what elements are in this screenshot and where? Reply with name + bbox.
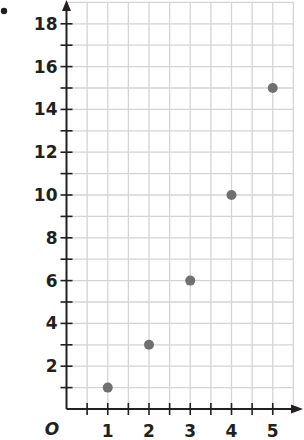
x-tick-label: 3	[184, 421, 196, 440]
data-point	[144, 340, 154, 350]
y-tick-label: 14	[34, 99, 58, 119]
x-tick-label: 4	[226, 421, 238, 440]
y-tick-label: 10	[34, 185, 58, 205]
y-tick-label: 12	[34, 142, 58, 162]
scatter-chart: 2468101214161812345O	[0, 0, 304, 440]
data-point	[268, 83, 278, 93]
y-tick-label: 6	[46, 271, 58, 291]
tick-labels: 2468101214161812345O	[34, 14, 279, 440]
y-tick-label: 8	[46, 228, 58, 248]
x-tick-label: 5	[267, 421, 279, 440]
y-tick-label: 16	[34, 57, 58, 77]
y-tick-label: 2	[46, 356, 58, 376]
x-tick-label: 1	[102, 421, 114, 440]
axis-ticks	[61, 24, 273, 415]
bullet-mark	[1, 8, 7, 14]
data-point	[103, 383, 113, 393]
y-tick-label: 18	[34, 14, 58, 34]
x-tick-label: 2	[143, 421, 155, 440]
y-tick-label: 4	[46, 313, 58, 333]
data-point	[227, 190, 237, 200]
axes	[62, 0, 303, 414]
data-point	[185, 276, 195, 286]
grid-lines	[67, 2, 294, 409]
origin-label: O	[45, 419, 59, 439]
